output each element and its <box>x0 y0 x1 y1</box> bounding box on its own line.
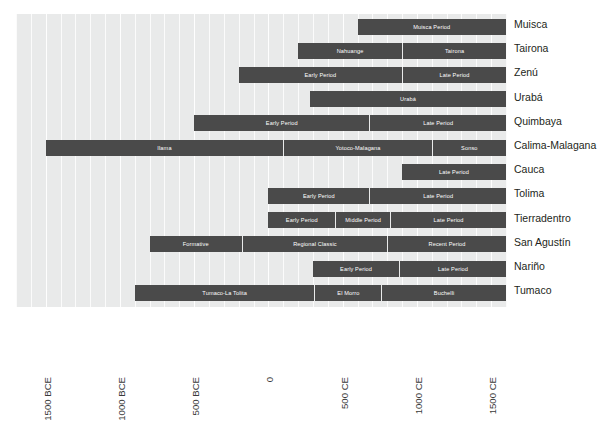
period-bar[interactable]: Late Period <box>402 164 506 180</box>
period-bar[interactable]: Early PeriodLate Period <box>313 261 506 277</box>
timeline-row: NahuangeTairona <box>16 39 506 63</box>
period-segment[interactable]: Early Period <box>194 115 369 131</box>
period-bar[interactable]: FormativeRegional ClassicRecent Period <box>150 236 506 252</box>
period-segment[interactable]: Formative <box>150 236 242 252</box>
row-label-muisca: Muisca <box>514 18 547 30</box>
timeline-row: Muisca Period <box>16 15 506 39</box>
period-segment[interactable]: Ilama <box>46 140 284 156</box>
timeline-row: Early PeriodLate Period <box>16 184 506 208</box>
period-segment[interactable]: Yotoco-Malagana <box>283 140 431 156</box>
timeline-row: Urabá <box>16 87 506 111</box>
period-segment[interactable]: Sonso <box>432 140 506 156</box>
period-segment[interactable]: Urabá <box>310 91 506 107</box>
period-bar[interactable]: Early PeriodLate Period <box>268 188 506 204</box>
period-bar[interactable]: Tumaco-La TolitaEl MorroBuchelli <box>135 285 506 301</box>
period-segment[interactable]: Late Period <box>402 67 506 83</box>
period-segment[interactable]: Early Period <box>268 188 369 204</box>
x-tick-label: 1000 BCE <box>116 377 127 421</box>
period-segment[interactable]: Early Period <box>313 261 399 277</box>
period-segment[interactable]: Early Period <box>268 212 335 228</box>
period-segment[interactable]: Middle Period <box>335 212 390 228</box>
row-label-cauca: Cauca <box>514 163 544 175</box>
timeline-row: IlamaYotoco-MalaganaSonso <box>16 136 506 160</box>
row-label-tierradentro: Tierradentro <box>514 212 571 224</box>
timeline-row: FormativeRegional ClassicRecent Period <box>16 232 506 256</box>
period-segment[interactable]: Late Period <box>369 188 506 204</box>
row-label-tairona: Tairona <box>514 42 548 54</box>
period-segment[interactable]: Tumaco-La Tolita <box>135 285 315 301</box>
row-label-urab-: Urabá <box>514 91 543 103</box>
period-segment[interactable]: Late Period <box>399 261 506 277</box>
period-segment[interactable]: Late Period <box>369 115 506 131</box>
row-label-tumaco: Tumaco <box>514 284 552 296</box>
period-bar[interactable]: Urabá <box>310 91 506 107</box>
x-tick-label: 0 <box>264 377 275 382</box>
row-label-san-agust-n: San Agustín <box>514 236 571 248</box>
row-label-nari-o: Nariño <box>514 260 545 272</box>
timeline-row: Late Period <box>16 160 506 184</box>
timeline-row: Early PeriodLate Period <box>16 257 506 281</box>
timeline-row: Early PeriodLate Period <box>16 111 506 135</box>
plot-area: Muisca PeriodNahuangeTaironaEarly Period… <box>16 14 506 307</box>
period-segment[interactable]: Early Period <box>239 67 402 83</box>
row-label-tolima: Tolima <box>514 187 544 199</box>
row-label-quimbaya: Quimbaya <box>514 115 562 127</box>
period-bar[interactable]: IlamaYotoco-MalaganaSonso <box>46 140 506 156</box>
row-label-zen-: Zenú <box>514 66 538 78</box>
timeline-row: Tumaco-La TolitaEl MorroBuchelli <box>16 281 506 305</box>
x-tick-label: 500 CE <box>339 377 350 409</box>
x-tick-label: 1500 BCE <box>42 377 53 421</box>
period-segment[interactable]: El Morro <box>314 285 381 301</box>
x-tick-label: 500 BCE <box>190 377 201 415</box>
period-segment[interactable]: Late Period <box>390 212 506 228</box>
period-bar[interactable]: Early PeriodMiddle PeriodLate Period <box>268 212 506 228</box>
x-tick-label: 1000 CE <box>413 377 424 414</box>
period-segment[interactable]: Buchelli <box>381 285 506 301</box>
period-bar[interactable]: Early PeriodLate Period <box>194 115 506 131</box>
period-segment[interactable]: Muisca Period <box>358 19 506 35</box>
period-segment[interactable]: Recent Period <box>387 236 506 252</box>
row-label-calima-malagana: Calima-Malagana <box>514 139 596 151</box>
period-segment[interactable]: Nahuange <box>298 43 402 59</box>
period-segment[interactable]: Regional Classic <box>242 236 388 252</box>
timeline-row: Early PeriodLate Period <box>16 63 506 87</box>
timeline-row: Early PeriodMiddle PeriodLate Period <box>16 208 506 232</box>
x-axis: 1500 BCE1000 BCE500 BCE0500 CE1000 CE150… <box>16 307 506 386</box>
x-tick-label: 1500 CE <box>487 377 498 414</box>
period-segment[interactable]: Late Period <box>402 164 506 180</box>
period-segment[interactable]: Tairona <box>402 43 506 59</box>
period-bar[interactable]: NahuangeTairona <box>298 43 506 59</box>
period-bar[interactable]: Early PeriodLate Period <box>239 67 506 83</box>
period-bar[interactable]: Muisca Period <box>358 19 506 35</box>
gridline <box>506 14 507 307</box>
